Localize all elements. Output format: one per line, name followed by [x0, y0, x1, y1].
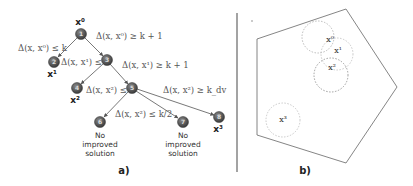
svg-text:3: 3 — [105, 56, 109, 63]
tag-x1: x¹ — [47, 69, 57, 79]
node-4: 4 — [72, 83, 83, 94]
feasible-region-pentagon — [257, 9, 397, 163]
panel-a-label: a) — [118, 165, 129, 176]
svg-text:1: 1 — [79, 30, 83, 37]
label-b-x0: x⁰ — [326, 35, 334, 44]
edge-label-1-2: Δ(x, x⁰) ≤ k — [18, 43, 68, 53]
svg-text:7: 7 — [181, 118, 185, 125]
node-1: 1 — [76, 29, 87, 40]
edge-label-5-8: Δ(x, x²) ≥ k_dv — [163, 85, 227, 96]
label-b-x2: x² — [328, 63, 336, 72]
svg-text:4: 4 — [75, 84, 79, 91]
node-5: 5 — [127, 83, 138, 94]
node-7: 7 — [178, 117, 189, 128]
label-b-x1: x¹ — [334, 46, 342, 55]
svg-text:improved: improved — [165, 140, 201, 149]
tree-edges — [58, 38, 214, 118]
tag-x2: x² — [70, 95, 80, 105]
svg-text:No: No — [95, 131, 106, 140]
panel-b-label: b) — [299, 165, 311, 176]
edge-label-5-7: Δ(x, x²) ≤ k/2 — [115, 109, 172, 119]
neighborhood-labels: x⁰ x¹ x² x³ — [279, 35, 342, 124]
edge-label-1-3: Δ(x, x⁰) ≥ k + 1 — [96, 31, 163, 41]
svg-text:2: 2 — [52, 58, 56, 65]
edge-3-4 — [81, 64, 103, 84]
dot-marker — [251, 20, 253, 22]
note-node-7: No improved solution — [165, 131, 201, 158]
svg-text:solution: solution — [168, 149, 198, 158]
svg-text:8: 8 — [217, 113, 221, 120]
note-node-6: No improved solution — [82, 131, 118, 158]
tag-x3: x³ — [213, 124, 223, 134]
label-b-x3: x³ — [279, 115, 287, 124]
node-8: 8 — [214, 112, 225, 123]
node-2: 2 — [49, 57, 60, 68]
tag-x0: x⁰ — [75, 17, 85, 27]
svg-text:improved: improved — [82, 140, 118, 149]
node-6: 6 — [95, 117, 106, 128]
svg-text:5: 5 — [130, 84, 134, 91]
svg-text:solution: solution — [85, 149, 115, 158]
svg-text:6: 6 — [98, 118, 102, 125]
diagram-canvas: Δ(x, x⁰) ≤ k Δ(x, x⁰) ≥ k + 1 Δ(x, x¹) ≤… — [0, 0, 413, 186]
node-3: 3 — [102, 55, 113, 66]
edge-label-3-5: Δ(x, x¹) ≥ k + 1 — [122, 60, 189, 70]
svg-text:No: No — [178, 131, 189, 140]
